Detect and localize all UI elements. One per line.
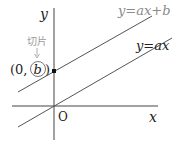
coordinate-diagram: y x O y=ax+b y=ax 切片 (0, b ) — [0, 0, 184, 148]
line-y-ax-plus-b — [18, 16, 152, 92]
x-axis-label: x — [149, 109, 157, 125]
line-y-ax-label: y=ax — [135, 38, 170, 53]
point-label-prefix: (0, — [10, 62, 27, 77]
origin-label: O — [58, 110, 68, 124]
intercept-annotation: 切片 — [27, 35, 47, 47]
y-axis-label: y — [39, 6, 49, 22]
point-label-suffix: ) — [45, 62, 50, 77]
intercept-point — [52, 69, 56, 73]
line-y-ax-plus-b-label: y=ax+b — [117, 3, 171, 18]
point-label-var: b — [34, 62, 42, 77]
